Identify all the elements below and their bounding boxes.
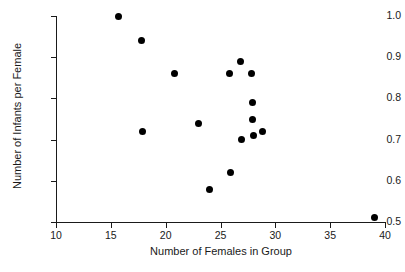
x-axis-tick-label: 15: [91, 230, 131, 241]
data-point: [371, 214, 378, 221]
x-axis-tick-label: 25: [201, 230, 241, 241]
data-point: [115, 13, 122, 20]
x-axis-tick-mark: [385, 223, 386, 228]
plot-area: [56, 16, 385, 222]
data-point: [195, 120, 202, 127]
x-axis-tick-mark: [56, 223, 57, 228]
data-point: [250, 132, 257, 139]
x-axis-tick-label: 35: [310, 230, 350, 241]
data-point: [138, 37, 145, 44]
data-point: [226, 70, 233, 77]
data-point: [248, 70, 255, 77]
y-axis-title: Number of Infants per Female: [11, 11, 23, 221]
x-axis-tick-label: 20: [146, 230, 186, 241]
data-point: [237, 58, 244, 65]
data-point: [238, 136, 245, 143]
x-axis-tick-mark: [166, 223, 167, 228]
x-axis-tick-label: 40: [365, 230, 405, 241]
x-axis-tick-mark: [330, 223, 331, 228]
x-axis-tick-mark: [221, 223, 222, 228]
data-point: [227, 169, 234, 176]
x-axis-title: Number of Females in Group: [56, 245, 386, 257]
data-point: [139, 128, 146, 135]
x-axis-tick-mark: [111, 223, 112, 228]
data-point: [249, 116, 256, 123]
data-point: [171, 70, 178, 77]
x-axis-tick-label: 30: [255, 230, 295, 241]
x-axis-tick-mark: [275, 223, 276, 228]
data-point: [249, 99, 256, 106]
data-point: [206, 186, 213, 193]
x-axis-tick-label: 10: [36, 230, 76, 241]
data-point: [259, 128, 266, 135]
